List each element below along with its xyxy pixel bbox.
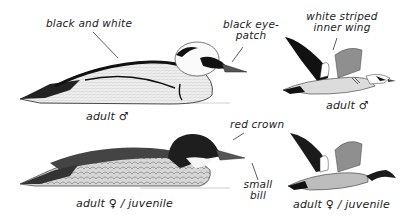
adult-male-swimming: [20, 42, 247, 104]
label-black-and-white: black and white: [46, 18, 132, 29]
caption-male-swimming: adult ♂: [86, 111, 129, 122]
adult-female-swimming: [20, 134, 245, 188]
caption-male-flying: adult ♂: [326, 100, 369, 111]
label-red-crown: red crown: [230, 119, 284, 130]
caption-female-swimming: adult ♀ / juvenile: [76, 198, 173, 209]
label-white-striped-line2: inner wing: [302, 22, 382, 33]
label-small-bill-line2: bill: [240, 190, 276, 201]
adult-female-flying: [288, 133, 396, 190]
adult-male-flying: [283, 37, 396, 94]
label-black-eye-patch-line2: patch: [222, 30, 280, 41]
caption-female-flying: adult ♀ / juvenile: [293, 199, 390, 210]
label-small-bill: small bill: [240, 179, 276, 201]
illustration-plate: black and white black eye- patch white s…: [0, 0, 403, 223]
label-white-striped-inner-wing: white striped inner wing: [302, 11, 382, 33]
label-black-eye-patch: black eye- patch: [222, 19, 280, 41]
